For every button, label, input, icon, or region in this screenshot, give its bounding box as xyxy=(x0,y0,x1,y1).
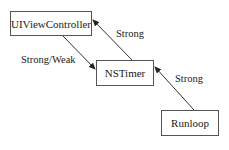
edge-label-timer-to-uivc: Strong xyxy=(116,28,144,39)
edge-label-uivc-to-timer: Strong/Weak xyxy=(21,54,76,65)
node-label: NSTimer xyxy=(105,67,146,79)
edge-timer-to-uivc xyxy=(93,20,132,60)
node-label: Runloop xyxy=(171,117,209,129)
node-runloop: Runloop xyxy=(161,110,219,136)
node-nstimer: NSTimer xyxy=(96,60,154,86)
edge-label-runloop-to-timer: Strong xyxy=(175,73,203,84)
node-uiviewcontroller: UIViewController xyxy=(10,11,92,36)
node-label: UIViewController xyxy=(11,18,91,30)
